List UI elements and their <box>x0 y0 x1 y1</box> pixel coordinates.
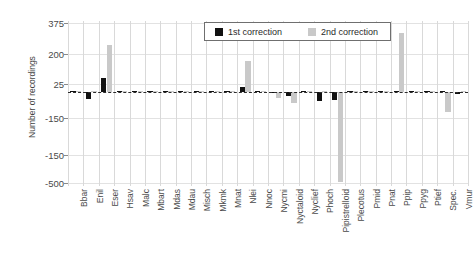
bar-2nd-correction-Ppip <box>399 33 404 92</box>
y-axis-tick-label: 375 <box>20 18 64 29</box>
legend-label-2nd-correction: 2nd correction <box>321 27 378 37</box>
gridline-vertical <box>437 21 438 186</box>
x-axis-tick-label: Pipistrelloid <box>341 189 351 232</box>
gridline-vertical <box>376 21 377 186</box>
y-axis-tick-label: -150 <box>20 113 64 124</box>
gridline-vertical <box>360 21 361 186</box>
bar-2nd-correction-Eser <box>107 45 112 91</box>
bar-1st-correction-Enil <box>86 92 91 99</box>
y-axis-tick-label: -500 <box>20 178 64 189</box>
gridline-vertical <box>422 21 423 186</box>
y-axis-tick-label: 25 <box>20 79 64 90</box>
black-square-icon <box>215 28 223 36</box>
x-axis-tick-label: Mdau <box>187 189 197 210</box>
gridline-vertical <box>68 21 69 186</box>
chart-legend: 1st correction 2nd correction <box>204 22 391 41</box>
gridline-vertical <box>453 21 454 186</box>
gridline-vertical <box>237 21 238 186</box>
gridline-vertical <box>345 21 346 186</box>
x-axis-tick-label: Pmid <box>372 189 382 208</box>
gridline-vertical <box>299 21 300 186</box>
x-axis-tick-label: Pnat <box>387 189 397 207</box>
gridline-vertical <box>191 21 192 186</box>
x-axis-tick-label: Misch <box>202 189 212 211</box>
legend-item-2nd-correction: 2nd correction <box>308 27 378 37</box>
x-axis-tick-label: Nnoc <box>264 189 274 209</box>
x-axis-tick-label: Hsav <box>125 189 135 208</box>
bar-2nd-correction-Pipistrelloid <box>338 92 343 183</box>
x-axis-tick-label: Ppyg <box>418 189 428 208</box>
x-axis-tick-label: Spec. <box>448 189 458 211</box>
gridline-vertical <box>130 21 131 186</box>
gridline-vertical <box>83 21 84 186</box>
chart-figure: Number of recordings 1st correction 2nd … <box>0 0 475 264</box>
gridline-vertical <box>176 21 177 186</box>
zero-baseline <box>68 92 468 93</box>
x-axis-tick-label: Eser <box>110 189 120 206</box>
legend-item-1st-correction: 1st correction <box>215 27 282 37</box>
plot-area <box>68 21 468 186</box>
x-axis-tick-label: Malc <box>141 189 151 207</box>
gridline-vertical <box>391 21 392 186</box>
x-axis-tick-label: Enil <box>95 189 105 203</box>
x-axis-tick-label: Phoch <box>325 189 335 213</box>
bar-2nd-correction-Nyctaloid <box>291 92 296 103</box>
x-axis-tick-label: Plecotus <box>356 189 366 222</box>
gridline-vertical <box>253 21 254 186</box>
gridline-vertical <box>114 21 115 186</box>
gridline-vertical <box>222 21 223 186</box>
bar-2nd-correction-Spec <box>445 92 450 112</box>
x-axis-tick-label: Nycmi <box>279 189 289 213</box>
gridline-vertical <box>468 21 469 186</box>
legend-label-1st-correction: 1st correction <box>228 27 282 37</box>
x-axis-tick-label: Mnat <box>233 189 243 208</box>
bar-1st-correction-Phoch <box>317 92 322 102</box>
x-axis-tick-label: Mkmk <box>218 189 228 212</box>
gridline-vertical <box>406 21 407 186</box>
x-axis-tick-label: Ptief <box>433 189 443 206</box>
x-axis-tick-label: Mdas <box>172 189 182 210</box>
x-axis-tick-label: Bbar <box>79 189 89 207</box>
gridline-vertical <box>314 21 315 186</box>
x-axis-tick-label: Nyclief <box>310 189 320 215</box>
gridline-vertical <box>160 21 161 186</box>
bar-2nd-correction-Nlei <box>245 61 250 91</box>
gridline-vertical <box>99 21 100 186</box>
gridline-vertical <box>206 21 207 186</box>
x-axis-tick-label: Nlei <box>248 189 258 204</box>
gridline-vertical <box>145 21 146 186</box>
x-axis-tick-label: Vmur <box>464 189 474 209</box>
gridline-vertical <box>268 21 269 186</box>
bar-1st-correction-Eser <box>101 78 106 91</box>
x-axis-tick-label: Mbart <box>156 189 166 211</box>
gridline-vertical <box>330 21 331 186</box>
x-axis-tick-label: Ppip <box>402 189 412 206</box>
x-axis-tick-label: Nyctaloid <box>295 189 305 224</box>
gridline-vertical <box>283 21 284 186</box>
y-axis-tick-label: -150 <box>20 150 64 161</box>
bar-1st-correction-Pipistrelloid <box>332 92 337 101</box>
gray-square-icon <box>308 28 316 36</box>
y-axis-tick-label: 200 <box>20 49 64 60</box>
